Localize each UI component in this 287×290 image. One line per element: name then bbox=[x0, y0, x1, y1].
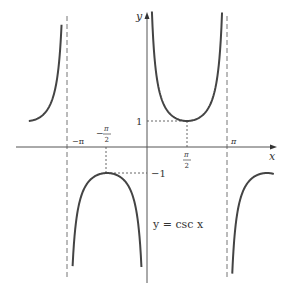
curve-branch-positive bbox=[152, 11, 222, 121]
tick-label-pi-half: π 2 bbox=[183, 151, 191, 170]
csc-graph: y x −π π − π 2 π 2 1 −1 y = csc x bbox=[0, 0, 287, 290]
curve-branch-negative bbox=[73, 173, 142, 267]
svg-text:π: π bbox=[183, 151, 189, 159]
tick-label-neg-pi: −π bbox=[72, 137, 84, 146]
y-axis-arrow-icon bbox=[145, 12, 150, 19]
svg-text:π: π bbox=[103, 125, 109, 133]
curve-branch-right bbox=[232, 173, 274, 274]
x-axis-arrow-icon bbox=[270, 145, 277, 150]
tick-label-y-1: 1 bbox=[136, 116, 142, 127]
svg-text:−: − bbox=[96, 128, 104, 138]
svg-text:2: 2 bbox=[105, 136, 109, 144]
svg-text:2: 2 bbox=[185, 162, 189, 170]
x-axis-label: x bbox=[269, 150, 276, 163]
y-axis-label: y bbox=[135, 10, 143, 23]
equation-label: y = csc x bbox=[152, 218, 204, 231]
curve-branch-left bbox=[29, 25, 62, 121]
tick-label-y-neg1: −1 bbox=[151, 168, 166, 179]
tick-label-neg-pi-half: − π 2 bbox=[96, 125, 111, 144]
tick-label-pi: π bbox=[230, 137, 237, 146]
